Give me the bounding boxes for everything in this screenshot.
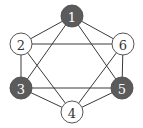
node-1: 1	[61, 5, 83, 27]
node-6: 6	[112, 33, 134, 55]
node-label: 5	[118, 82, 126, 97]
graph-diagram: 123456	[0, 0, 143, 128]
node-label: 6	[119, 38, 127, 53]
node-2: 2	[10, 33, 32, 55]
node-label: 2	[17, 38, 25, 53]
node-3: 3	[10, 77, 32, 99]
nodes-group: 123456	[10, 5, 134, 123]
node-label: 1	[68, 10, 76, 25]
edges-group	[21, 16, 123, 112]
node-label: 3	[17, 82, 25, 97]
edge-1-5	[72, 16, 122, 88]
node-label: 4	[68, 106, 76, 121]
node-5: 5	[111, 77, 133, 99]
node-4: 4	[61, 101, 83, 123]
